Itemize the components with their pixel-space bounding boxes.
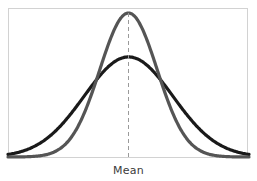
normal-distribution-figure: Mean [0,0,257,181]
mean-axis-label: Mean [0,164,257,177]
distribution-curves [0,0,257,181]
